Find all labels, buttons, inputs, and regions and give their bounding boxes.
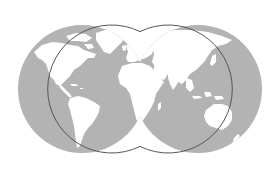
map-canvas [0, 0, 280, 177]
